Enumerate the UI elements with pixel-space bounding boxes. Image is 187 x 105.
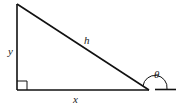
hypotenuse-label: h: [84, 34, 90, 46]
horizontal-side-label: x: [72, 93, 78, 105]
right-angle-marker: [17, 81, 27, 90]
triangle-diagram: h y x θ: [0, 0, 187, 105]
angle-label: θ: [154, 68, 160, 80]
hypotenuse: [17, 4, 149, 90]
vertical-side-label: y: [7, 45, 13, 57]
